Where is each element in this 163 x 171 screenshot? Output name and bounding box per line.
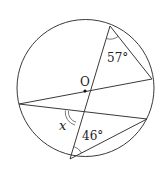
- center-point: [83, 89, 86, 92]
- angle-label-46: 46°: [82, 129, 103, 143]
- angle-arc-57: [106, 36, 118, 39]
- angle-arc-46: [74, 147, 82, 154]
- center-label: O: [80, 75, 90, 89]
- angle-label-x: x: [59, 118, 67, 133]
- angle-arc-x-inner: [68, 111, 76, 122]
- circle-diagram: O 57° 46° x: [0, 0, 163, 171]
- angle-label-57: 57°: [107, 51, 128, 65]
- diagram-canvas: O 57° 46° x: [0, 0, 163, 171]
